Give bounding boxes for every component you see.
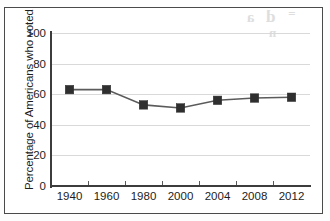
data-series — [51, 33, 310, 186]
y-axis-tick-label: 60 — [33, 88, 46, 100]
plot-area: 020406080100 194019601980200020042008201… — [51, 33, 310, 186]
data-point-marker — [139, 101, 148, 110]
x-axis-tick-label: 1940 — [57, 190, 83, 202]
y-axis-tick-label: 100 — [27, 27, 46, 39]
x-axis-tick-label: 2008 — [242, 190, 268, 202]
x-axis-tick-label: 1980 — [131, 190, 157, 202]
y-axis-title: Percentage of Americans who voted — [23, 14, 35, 190]
chart-figure: a d = n Percentage of Americans who vote… — [0, 0, 330, 221]
x-axis-tick-label: 2004 — [205, 190, 231, 202]
y-axis-tick-label: 0 — [40, 180, 46, 192]
data-point-marker — [250, 94, 259, 103]
data-point-marker — [287, 93, 296, 102]
y-axis-tick-label: 20 — [33, 149, 46, 161]
y-axis-tick-label: 40 — [33, 119, 46, 131]
y-axis-tick-label: 80 — [33, 58, 46, 70]
data-point-marker — [65, 85, 74, 94]
x-axis-tick-label: 2000 — [168, 190, 194, 202]
data-point-marker — [176, 104, 185, 113]
data-point-marker — [213, 96, 222, 105]
data-point-marker — [102, 85, 111, 94]
x-axis-tick-label: 1960 — [94, 190, 120, 202]
x-axis-tick-label: 2012 — [279, 190, 305, 202]
